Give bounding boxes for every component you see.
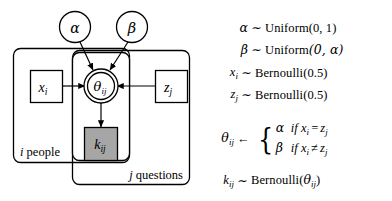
node-alpha-label: α: [70, 20, 80, 36]
equation-theta-case-equal-if: if: [291, 121, 298, 135]
equation-z-lhs: zj: [208, 88, 238, 103]
figure-root: α β xi zj θij kij i people j questions: [0, 0, 392, 201]
equation-x-rhs: Bernoulli(0.5): [255, 67, 328, 80]
equation-theta-case-notequal-left-sub: i: [307, 146, 310, 156]
plate-diagram: α β xi zj θij kij i people j questions: [0, 0, 200, 201]
equation-k-relation: ∼: [234, 175, 251, 188]
equation-beta-lhs: β: [218, 44, 248, 57]
equation-theta-case-notequal-op: ≠: [311, 141, 318, 155]
equation-x-dist-name: Bernoulli: [255, 66, 303, 80]
equation-k-arg-var: θ: [303, 172, 311, 187]
equation-k-close-paren: ): [316, 173, 320, 187]
equation-z-rhs: Bernoulli(0.5): [255, 89, 328, 102]
equation-theta-case-equal: αifxi=zj: [276, 122, 328, 137]
equation-alpha: α ∼ Uniform(0, 1): [218, 22, 336, 35]
equation-theta-case-notequal: βifxi≠zj: [276, 142, 328, 157]
equation-z-dist-args: (0.5): [303, 88, 327, 102]
equation-x-relation: ∼: [238, 67, 255, 80]
equation-alpha-rhs: Uniform(0, 1): [265, 22, 336, 35]
equation-x: xi ∼ Bernoulli(0.5): [208, 66, 328, 81]
plate-i-people-label: i people: [20, 145, 60, 159]
equation-theta-relation: ←: [234, 133, 253, 146]
left-brace-icon: {: [258, 124, 273, 154]
equation-theta-lhs: θij: [204, 132, 234, 147]
equation-z-dist-name: Bernoulli: [255, 88, 303, 102]
equation-k-rhs: Bernoulli(θij): [251, 174, 320, 189]
equation-theta-lhs-var: θ: [221, 130, 229, 145]
model-equations: α ∼ Uniform(0, 1) β ∼ Uniform(0, α) xi ∼…: [200, 0, 392, 201]
equation-z-relation: ∼: [238, 89, 255, 102]
equation-alpha-lhs: α: [218, 22, 248, 35]
node-beta-label: β: [127, 20, 136, 36]
equation-beta: β ∼ Uniform(0, α): [218, 44, 343, 57]
equation-beta-dist-args: (0, α): [309, 42, 344, 57]
equation-k: kij ∼ Bernoulli(θij): [204, 174, 320, 189]
equation-alpha-dist-args: (0, 1): [309, 21, 337, 35]
equation-theta-case-equal-value: α: [276, 122, 289, 135]
equation-theta-case-notequal-value: β: [276, 142, 289, 155]
plate-j-questions-label: j questions: [127, 168, 183, 182]
equation-z: zj ∼ Bernoulli(0.5): [208, 88, 328, 103]
equation-theta-case-equal-right-sub: j: [325, 127, 328, 137]
equation-theta-case-equal-op: =: [311, 121, 318, 135]
equation-theta-case-notequal-if: if: [291, 141, 298, 155]
equation-k-dist-name: Bernoulli: [251, 173, 299, 187]
equation-theta-case-equal-left-sub: i: [307, 127, 310, 137]
equation-beta-rhs: Uniform(0, α): [265, 44, 343, 57]
equation-theta: θij ← { αifxi=zj βifxi≠zj: [204, 122, 328, 156]
equation-alpha-dist-name: Uniform: [265, 21, 309, 35]
equation-x-lhs: xi: [208, 66, 238, 81]
plate-diagram-svg: α β xi zj θij kij i people j questions: [0, 0, 200, 201]
equation-beta-relation: ∼: [248, 44, 265, 57]
equation-theta-case-notequal-right-sub: j: [325, 146, 328, 156]
equation-k-lhs: kij: [204, 174, 234, 189]
equation-x-dist-args: (0.5): [303, 66, 327, 80]
equation-alpha-relation: ∼: [248, 22, 265, 35]
equation-beta-dist-name: Uniform: [265, 43, 309, 57]
equation-theta-cases: { αifxi=zj βifxi≠zj: [253, 122, 328, 156]
